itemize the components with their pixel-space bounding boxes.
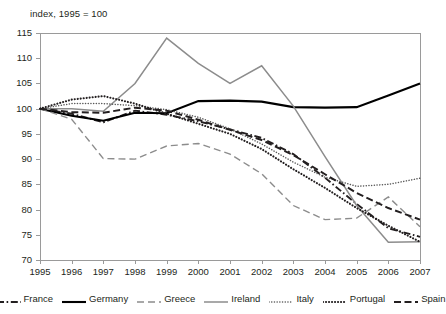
legend-label-ireland: Ireland (231, 293, 260, 304)
chart-legend: FranceGermanyGreeceIrelandItalyPortugalS… (0, 286, 442, 310)
legend-item-italy[interactable]: Italy (269, 293, 313, 304)
legend-swatch-spain (394, 293, 418, 303)
y-tick-label: 100 (6, 103, 32, 114)
legend-swatch-germany (62, 293, 86, 303)
legend-item-spain[interactable]: Spain (394, 293, 445, 304)
x-tick-label: 2000 (181, 266, 215, 277)
series-line-greece (40, 109, 420, 227)
legend-item-germany[interactable]: Germany (62, 293, 128, 304)
series-line-germany (40, 83, 420, 120)
legend-swatch-ireland (204, 293, 228, 303)
x-tick-label: 2002 (245, 266, 279, 277)
x-tick-label: 2004 (308, 266, 342, 277)
legend-swatch-italy (269, 293, 293, 303)
legend-label-greece: Greece (164, 293, 195, 304)
y-tick-label: 85 (6, 178, 32, 189)
x-tick-label: 2006 (371, 266, 405, 277)
x-tick-label: 1999 (150, 266, 184, 277)
legend-item-ireland[interactable]: Ireland (204, 293, 260, 304)
x-tick-label: 1997 (86, 266, 120, 277)
legend-swatch-france (0, 293, 21, 303)
x-tick-label: 2005 (340, 266, 374, 277)
y-tick-label: 110 (6, 52, 32, 63)
x-tick-label: 2001 (213, 266, 247, 277)
legend-label-france: France (24, 293, 54, 304)
legend-swatch-greece (137, 293, 161, 303)
series-layer (40, 38, 420, 242)
legend-label-portugal: Portugal (350, 293, 385, 304)
series-line-france (40, 109, 420, 237)
y-tick-label: 80 (6, 204, 32, 215)
y-tick-label: 70 (6, 254, 32, 265)
legend-label-italy: Italy (296, 293, 313, 304)
legend-swatch-portugal (323, 293, 347, 303)
y-tick-label: 75 (6, 229, 32, 240)
legend-label-spain: Spain (421, 293, 445, 304)
legend-item-greece[interactable]: Greece (137, 293, 195, 304)
y-tick-label: 95 (6, 128, 32, 139)
x-tick-label: 1995 (23, 266, 57, 277)
legend-item-portugal[interactable]: Portugal (323, 293, 385, 304)
series-line-portugal (40, 96, 420, 242)
x-tick-label: 2007 (403, 266, 437, 277)
x-tick-label: 1998 (118, 266, 152, 277)
x-tick-label: 1996 (55, 266, 89, 277)
y-tick-label: 105 (6, 77, 32, 88)
legend-item-france[interactable]: France (0, 293, 53, 304)
y-tick-label: 115 (6, 27, 32, 38)
axes-layer (36, 34, 421, 265)
series-line-italy (40, 104, 420, 187)
y-tick-label: 90 (6, 153, 32, 164)
legend-label-germany: Germany (89, 293, 128, 304)
x-tick-label: 2003 (276, 266, 310, 277)
series-line-spain (40, 108, 420, 220)
